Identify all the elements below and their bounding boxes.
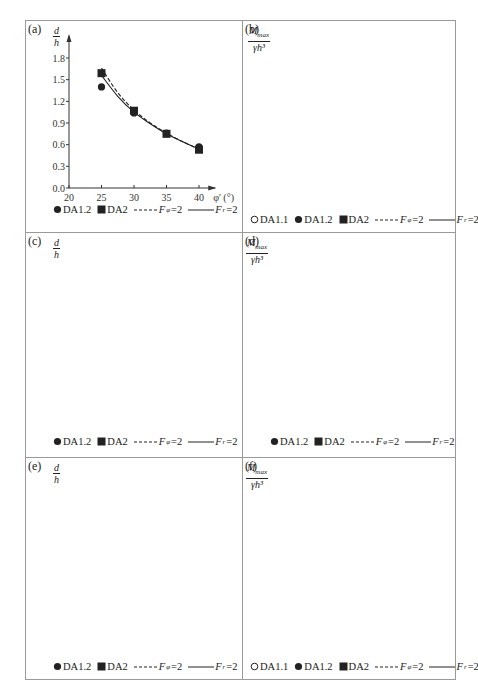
filled-circle-icon [294, 215, 303, 224]
figure-frame [25, 20, 456, 680]
dashed-line-icon [134, 664, 158, 670]
legend-item: DA2 [314, 436, 344, 447]
legend-item: Fφ=2 [134, 436, 182, 447]
y-axis-label-a: dh [53, 25, 60, 48]
y-axis-label-d: Mmaxγh³ [246, 237, 268, 265]
legend-f: DA1.1DA1.2DA2Fφ=2Fr=2 [250, 661, 478, 672]
panel-label-e: (e) [28, 459, 41, 474]
y-axis-label-c: dh [53, 237, 60, 260]
panel-label-a: (a) [28, 22, 41, 37]
dashed-line-icon [375, 217, 399, 223]
legend-c: DA1.2DA2Fφ=2Fr=2 [53, 436, 238, 447]
filled-square-icon [97, 662, 106, 671]
y-label-denominator: h [53, 249, 60, 260]
solid-line-icon [188, 664, 214, 670]
dashed-line-icon [375, 664, 399, 670]
legend-item: Fφ=2 [134, 204, 182, 215]
legend-item: Fφ=2 [375, 214, 423, 225]
filled-circle-icon [270, 437, 279, 446]
y-label-denominator: γh³ [248, 42, 270, 53]
legend-item: Fφ=2 [375, 661, 423, 672]
filled-square-icon [97, 205, 106, 214]
dashed-line-icon [351, 439, 375, 445]
legend-item: DA2 [97, 204, 127, 215]
y-label-denominator: h [53, 474, 60, 485]
open-circle-icon [250, 662, 259, 671]
legend-item: Fr=2 [188, 661, 237, 672]
solid-line-icon [429, 664, 455, 670]
y-label-denominator: h [53, 37, 60, 48]
y-label-numerator: d [53, 462, 60, 474]
legend-item: DA1.2 [53, 204, 91, 215]
legend-item: DA1.2 [53, 661, 91, 672]
legend-a: DA1.2DA2Fφ=2Fr=2 [53, 204, 238, 215]
legend-item: DA1.2 [53, 436, 91, 447]
row-divider-1 [25, 232, 456, 233]
legend-item: DA1.2 [294, 214, 332, 225]
legend-item: Fr=2 [188, 436, 237, 447]
filled-square-icon [339, 662, 348, 671]
filled-square-icon [314, 437, 323, 446]
row-divider-2 [25, 457, 456, 458]
legend-item: DA2 [97, 661, 127, 672]
filled-circle-icon [53, 437, 62, 446]
y-label-numerator: Mmax [246, 237, 268, 254]
y-axis-label-e: dh [53, 462, 60, 485]
solid-line-icon [429, 217, 455, 223]
filled-circle-icon [294, 662, 303, 671]
legend-item: DA1.2 [270, 436, 308, 447]
y-axis-label-f: Mmaxγh³ [246, 462, 268, 490]
column-divider [242, 20, 243, 680]
legend-e: DA1.2DA2Fφ=2Fr=2 [53, 661, 238, 672]
filled-square-icon [97, 437, 106, 446]
legend-item: DA1.1 [250, 661, 288, 672]
y-label-numerator: d [53, 25, 60, 37]
y-label-numerator: Mmax [246, 462, 268, 479]
filled-square-icon [339, 215, 348, 224]
solid-line-icon [188, 207, 214, 213]
legend-item: Fr=2 [429, 214, 478, 225]
dashed-line-icon [134, 207, 158, 213]
filled-circle-icon [53, 662, 62, 671]
dashed-line-icon [134, 439, 158, 445]
legend-item: Fr=2 [429, 661, 478, 672]
legend-d: DA1.2DA2Fφ=2Fr=2 [270, 436, 455, 447]
y-label-numerator: Mmax [248, 25, 270, 42]
panel-label-c: (c) [28, 234, 41, 249]
legend-item: Fφ=2 [134, 661, 182, 672]
legend-item: Fr=2 [405, 436, 454, 447]
filled-circle-icon [53, 205, 62, 214]
legend-b: DA1.1DA1.2DA2Fφ=2Fr=2 [250, 214, 478, 225]
legend-item: DA1.2 [294, 661, 332, 672]
legend-item: Fr=2 [188, 204, 237, 215]
y-label-denominator: γh³ [246, 254, 268, 265]
legend-item: DA1.1 [250, 214, 288, 225]
solid-line-icon [188, 439, 214, 445]
solid-line-icon [405, 439, 431, 445]
legend-item: DA2 [339, 214, 369, 225]
y-label-denominator: γh³ [246, 479, 268, 490]
open-circle-icon [250, 215, 259, 224]
legend-item: DA2 [339, 661, 369, 672]
legend-item: Fφ=2 [351, 436, 399, 447]
y-axis-label-b: Mmaxγh³ [248, 25, 270, 53]
legend-item: DA2 [97, 436, 127, 447]
y-label-numerator: d [53, 237, 60, 249]
